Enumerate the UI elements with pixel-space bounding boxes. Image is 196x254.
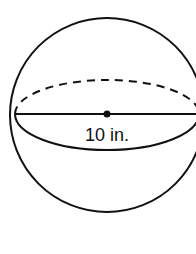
sphere-diagram: 10 in. xyxy=(0,0,196,254)
hidden-equator-arc xyxy=(15,80,196,114)
center-point xyxy=(104,111,111,118)
diameter-label: 10 in. xyxy=(85,125,129,145)
